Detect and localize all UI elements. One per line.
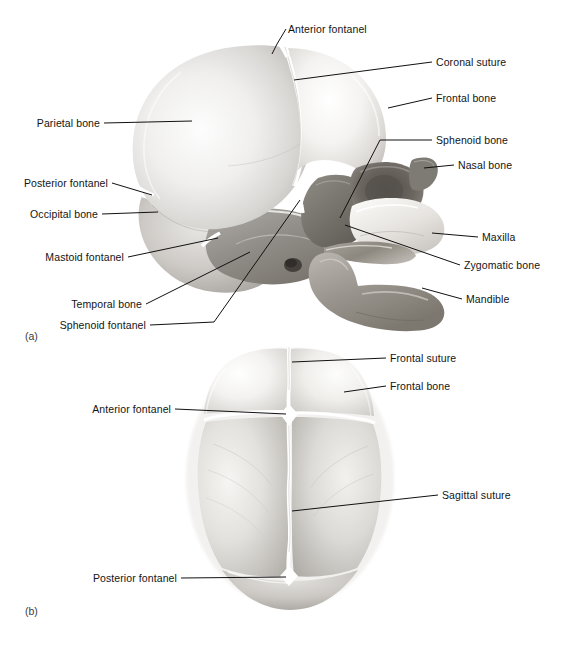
leader-sphenoid-bone-a (340, 140, 432, 218)
label-mandible-a: Mandible (466, 294, 509, 305)
leader-posterior-fontanel-a (112, 183, 152, 195)
label-occipital-bone-a: Occipital bone (30, 209, 98, 220)
label-posterior-fontanel-b: Posterior fontanel (93, 573, 177, 584)
leader-frontal-bone-a (388, 98, 432, 108)
label-anterior-fontanel-a: Anterior fontanel (288, 24, 367, 35)
panel-tag-a: (a) (25, 330, 38, 342)
label-mastoid-fontanel-a: Mastoid fontanel (45, 252, 124, 263)
leader-temporal-bone-a (146, 252, 250, 304)
label-parietal-bone-a: Parietal bone (37, 118, 100, 129)
label-frontal-bone-a: Frontal bone (436, 93, 496, 104)
leader-mandible-a (422, 288, 462, 299)
label-sagittal-suture-b: Sagittal suture (442, 490, 511, 501)
label-sphenoid-fontanel-a: Sphenoid fontanel (60, 320, 146, 331)
label-sphenoid-bone-a: Sphenoid bone (436, 135, 508, 146)
leader-occipital-bone-a (102, 212, 158, 214)
label-frontal-suture-b: Frontal suture (390, 353, 456, 364)
leader-sagittal-suture-b (292, 495, 438, 511)
label-coronal-suture-a: Coronal suture (436, 57, 506, 68)
leader-zygomatic-bone-a (345, 225, 460, 265)
leader-frontal-bone-b (344, 386, 386, 392)
leader-sphenoid-fontanel-a (150, 200, 300, 325)
leader-anterior-fontanel-b (175, 409, 286, 414)
label-zygomatic-bone-a: Zygomatic bone (464, 260, 540, 271)
label-frontal-bone-b: Frontal bone (390, 381, 450, 392)
label-nasal-bone-a: Nasal bone (458, 160, 512, 171)
leader-parietal-bone-a (104, 121, 192, 123)
leader-mastoid-fontanel-a (128, 238, 218, 257)
label-maxilla-a: Maxilla (482, 232, 515, 243)
label-temporal-bone-a: Temporal bone (71, 299, 142, 310)
label-anterior-fontanel-b: Anterior fontanel (92, 404, 171, 415)
panel-tag-b: (b) (25, 605, 38, 617)
figure-root: Anterior fontanel Coronal suture Frontal… (0, 0, 576, 652)
leader-anterior-fontanel-a (272, 29, 286, 54)
label-posterior-fontanel-a: Posterior fontanel (24, 178, 108, 189)
leader-posterior-fontanel-b (181, 577, 286, 578)
leader-frontal-suture-b (292, 358, 386, 362)
leader-maxilla-a (432, 233, 478, 237)
leader-coronal-suture-a (294, 62, 432, 80)
leader-nasal-bone-a (424, 165, 454, 168)
